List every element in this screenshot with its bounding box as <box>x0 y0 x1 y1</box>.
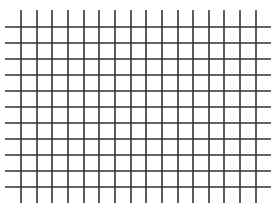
square-grid <box>0 0 275 206</box>
horizontal-grid-lines <box>5 27 271 187</box>
